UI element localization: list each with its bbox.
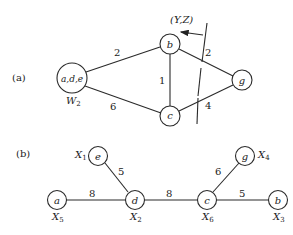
node-g-label: g [239, 75, 245, 86]
part-b-label: (b) [16, 148, 30, 159]
weight-c-g: 6 [215, 166, 221, 177]
node-g-b-label: g [242, 151, 248, 162]
cut-line-mid [198, 68, 201, 96]
node-c-label: c [167, 110, 173, 121]
node-ade-label: a,d,e [61, 74, 83, 84]
node-ade: a,d,e [57, 63, 87, 93]
node-c-x-label: X6 [201, 211, 214, 224]
node-c-b-label: c [204, 195, 210, 206]
node-a: a [48, 191, 67, 210]
edge-ade-b [86, 47, 160, 72]
cut-label: (Y,Z) [170, 14, 193, 25]
weight-d-c: 8 [166, 188, 172, 199]
weight-b-g: 2 [205, 47, 211, 58]
edge-ade-c [85, 86, 161, 113]
node-b-b-label: b [275, 195, 281, 206]
part-a: (a) 2 6 1 2 4 (Y,Z) a,d,e W2 b c [12, 14, 252, 126]
node-d-x-label: X2 [129, 211, 142, 224]
node-b: b [160, 34, 180, 54]
node-e: e [89, 147, 108, 166]
node-d: d [126, 191, 145, 210]
cut-direction-arrow-icon [181, 32, 203, 35]
node-c-b: c [198, 191, 217, 210]
weight-ade-b: 2 [114, 47, 120, 58]
node-g: g [232, 70, 252, 90]
node-e-label: e [95, 151, 101, 162]
node-b-b: b [269, 191, 288, 210]
node-ade-weight-label: W2 [66, 95, 81, 108]
weight-c-g: 4 [205, 100, 211, 111]
node-b-x-label: X3 [272, 211, 285, 224]
edge-e-d [105, 163, 128, 192]
node-c: c [160, 106, 180, 126]
node-b-label: b [167, 39, 173, 50]
weight-b-c: 1 [159, 75, 165, 86]
weight-ade-c: 6 [110, 101, 116, 112]
weight-a-d: 8 [89, 188, 95, 199]
node-a-label: a [54, 195, 60, 206]
graph-diagram: (a) 2 6 1 2 4 (Y,Z) a,d,e W2 b c [0, 0, 293, 235]
weight-c-b: 5 [239, 188, 245, 199]
part-b: (b) 5 8 8 6 5 e X1 a X5 d X2 c [16, 147, 288, 225]
node-g-b: g [236, 147, 255, 166]
weight-e-d: 5 [118, 166, 124, 177]
node-e-x-label: X1 [74, 149, 87, 162]
part-a-label: (a) [12, 72, 26, 83]
node-d-label: d [132, 195, 138, 206]
node-a-x-label: X5 [51, 211, 64, 224]
node-g-x-label: X4 [257, 149, 270, 162]
